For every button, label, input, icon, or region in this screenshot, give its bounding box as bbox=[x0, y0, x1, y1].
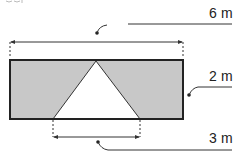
width-dimension bbox=[10, 40, 183, 58]
base-dimension bbox=[53, 120, 140, 139]
triangle-base-label: 3 m bbox=[209, 130, 233, 146]
width-leader-line bbox=[95, 24, 232, 35]
height-label: 2 m bbox=[209, 68, 233, 84]
geometry-diagram bbox=[0, 0, 239, 160]
height-leader-line bbox=[187, 87, 232, 97]
width-label: 6 m bbox=[209, 5, 233, 21]
cropped-caption-fragment bbox=[6, 0, 22, 3]
